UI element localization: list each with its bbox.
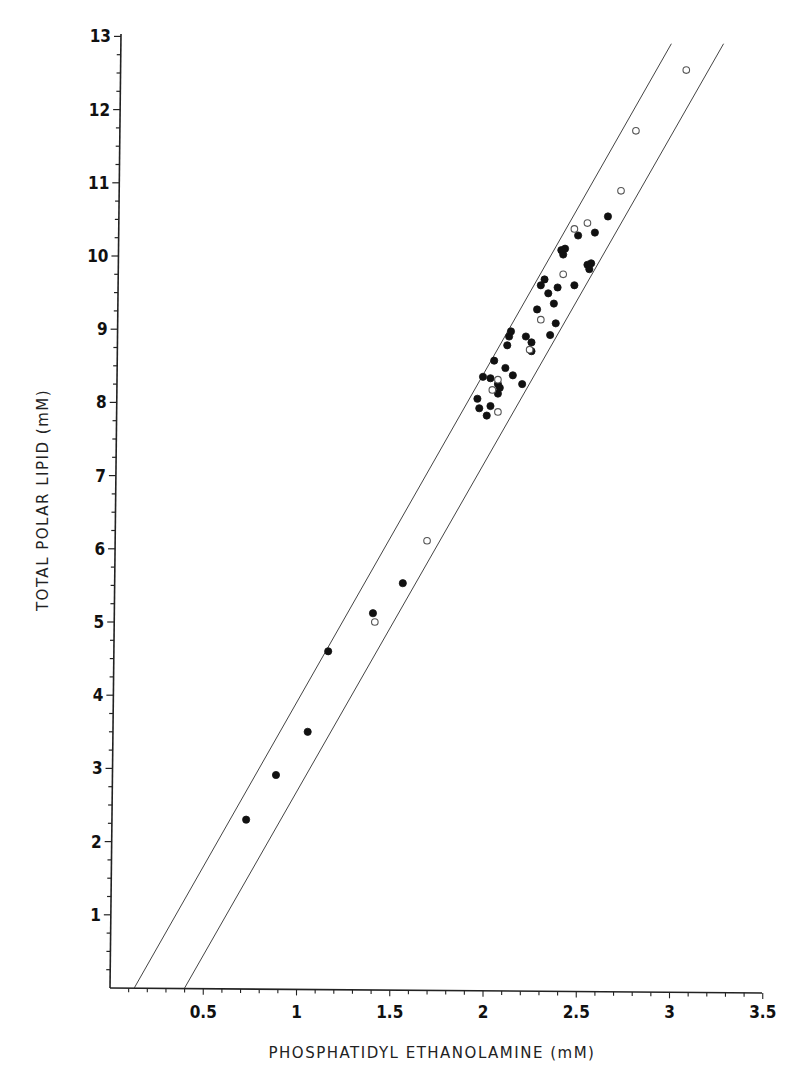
filled-data-point xyxy=(528,339,535,346)
filled-data-point xyxy=(550,300,557,307)
open-data-point xyxy=(489,387,496,394)
y-tick-label: 11 xyxy=(88,173,109,193)
filled-data-point xyxy=(552,320,559,327)
open-data-point xyxy=(495,376,502,383)
y-tick-label: 7 xyxy=(95,466,106,486)
filled-data-point xyxy=(474,395,481,402)
filled-data-point xyxy=(591,229,598,236)
y-axis-line xyxy=(110,34,121,988)
filled-data-point xyxy=(504,342,511,349)
x-tick-label: 1.5 xyxy=(376,1002,403,1022)
filled-data-point xyxy=(487,402,494,409)
filled-data-point xyxy=(325,648,332,655)
x-tick-label: 1 xyxy=(291,1002,302,1022)
x-tick-label: 2.5 xyxy=(563,1002,590,1022)
x-tick-label: 0.5 xyxy=(190,1002,217,1022)
filled-data-point xyxy=(502,364,509,371)
scatter-chart: 12345678910111213 0.511.522.533.5 PHOSPH… xyxy=(0,0,795,1089)
filled-data-point xyxy=(479,373,486,380)
y-tick-label: 5 xyxy=(94,612,105,632)
filled-data-point xyxy=(554,284,561,291)
filled-data-point xyxy=(487,375,494,382)
y-tick-label: 3 xyxy=(92,758,103,778)
filled-data-point xyxy=(588,260,595,267)
filled-data-point xyxy=(519,381,526,388)
open-data-point xyxy=(526,346,533,353)
y-tick-label: 10 xyxy=(87,246,108,266)
x-axis-title: PHOSPHATIDYL ETHANOLAMINE (mM) xyxy=(269,1044,596,1062)
filled-data-point xyxy=(509,372,516,379)
filled-data-point xyxy=(399,580,406,587)
x-tick-label: 3 xyxy=(664,1002,675,1022)
open-data-point xyxy=(584,220,591,227)
filled-data-point xyxy=(545,290,552,297)
filled-data-point xyxy=(575,232,582,239)
y-tick-label: 9 xyxy=(97,319,108,339)
open-data-point xyxy=(571,226,578,233)
filled-data-point xyxy=(496,384,503,391)
y-tick-label: 13 xyxy=(90,26,111,46)
filled-data-point xyxy=(533,306,540,313)
open-data-point xyxy=(424,537,431,544)
filled-data-point xyxy=(369,610,376,617)
y-tick-label: 1 xyxy=(90,905,101,925)
filled-data-point xyxy=(541,276,548,283)
y-tick-label: 8 xyxy=(96,392,107,412)
filled-data-point xyxy=(272,771,279,778)
y-axis-title: TOTAL POLAR LIPID (mM) xyxy=(34,389,52,612)
filled-data-point xyxy=(547,331,554,338)
axes: 12345678910111213 0.511.522.533.5 xyxy=(87,26,776,1022)
lower-bound-line xyxy=(185,44,724,988)
x-tick-label: 2 xyxy=(478,1002,489,1022)
filled-data-point xyxy=(561,245,568,252)
filled-data-point xyxy=(304,728,311,735)
filled-data-point xyxy=(243,816,250,823)
filled-data-point xyxy=(571,282,578,289)
open-data-point xyxy=(633,128,640,135)
filled-data-point xyxy=(476,405,483,412)
open-data-point xyxy=(538,316,545,323)
filled-data-point xyxy=(604,213,611,220)
upper-bound-line xyxy=(134,44,671,988)
y-tick-label: 4 xyxy=(93,685,104,705)
x-axis-line xyxy=(110,988,762,993)
x-axis-ticks: 0.511.522.533.5 xyxy=(129,988,777,1022)
open-data-point xyxy=(683,67,690,74)
filled-data-point xyxy=(491,357,498,364)
open-data-point xyxy=(495,409,502,416)
bounding-lines xyxy=(134,44,723,988)
y-tick-label: 6 xyxy=(94,539,105,559)
filled-data-point xyxy=(507,328,514,335)
filled-data-point xyxy=(483,412,490,419)
data-points xyxy=(243,67,690,823)
open-data-point xyxy=(618,188,625,195)
y-tick-label: 2 xyxy=(91,832,102,852)
y-tick-label: 12 xyxy=(89,100,110,120)
open-data-point xyxy=(372,619,379,626)
x-tick-label: 3.5 xyxy=(749,1002,776,1022)
filled-data-point xyxy=(522,333,529,340)
open-data-point xyxy=(560,271,567,278)
